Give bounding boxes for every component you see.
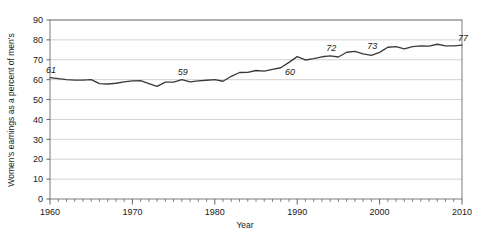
x-tick-label-2000: 2000 [370, 207, 390, 217]
y-tick-label-70: 70 [33, 55, 43, 65]
data-label-1960: 61 [46, 65, 56, 75]
data-label-2010: 77 [458, 33, 469, 43]
x-tick-label-2010: 2010 [452, 207, 472, 217]
y-axis: 0102030405060708090 [33, 15, 50, 204]
y-tick-label-10: 10 [33, 174, 43, 184]
x-axis-title: Year [236, 220, 253, 230]
x-tick-label-1980: 1980 [205, 207, 225, 217]
plot-area-background [50, 20, 462, 199]
y-axis-title: Women's earnings as a percent of men's [6, 33, 16, 186]
data-label-1994: 72 [326, 43, 336, 53]
x-axis: 196019701980199020002010 [40, 199, 472, 217]
x-tick-label-1960: 1960 [40, 207, 60, 217]
y-tick-label-60: 60 [33, 75, 43, 85]
y-tick-label-40: 40 [33, 115, 43, 125]
y-tick-label-0: 0 [38, 194, 43, 204]
x-tick-label-1990: 1990 [287, 207, 307, 217]
y-tick-label-20: 20 [33, 154, 43, 164]
chart-container: 0102030405060708090 19601970198019902000… [0, 0, 484, 236]
earnings-ratio-line-chart: 0102030405060708090 19601970198019902000… [0, 0, 484, 236]
data-label-1989: 60 [285, 67, 295, 77]
x-tick-label-1970: 1970 [122, 207, 142, 217]
y-tick-label-30: 30 [33, 135, 43, 145]
y-tick-label-80: 80 [33, 35, 43, 45]
data-label-1976: 59 [178, 67, 188, 77]
y-tick-label-90: 90 [33, 15, 43, 25]
data-label-1999: 73 [367, 41, 377, 51]
y-tick-label-50: 50 [33, 95, 43, 105]
